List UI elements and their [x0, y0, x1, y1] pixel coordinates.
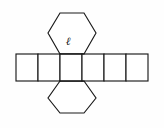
- rectangle-face-1: [16, 54, 38, 81]
- rectangle-face-4: [82, 54, 104, 81]
- hexagon-top-face: [48, 13, 96, 54]
- rectangle-face-6: [126, 54, 148, 81]
- hexagon-bottom-face: [48, 81, 96, 113]
- rectangle-face-2: [38, 54, 60, 81]
- edge-length-label: ℓ: [66, 36, 71, 47]
- rectangle-face-3: [60, 54, 82, 81]
- rectangle-face-5: [104, 54, 126, 81]
- hexagonal-prism-net: [0, 0, 164, 128]
- figure-canvas: ℓ: [0, 0, 164, 128]
